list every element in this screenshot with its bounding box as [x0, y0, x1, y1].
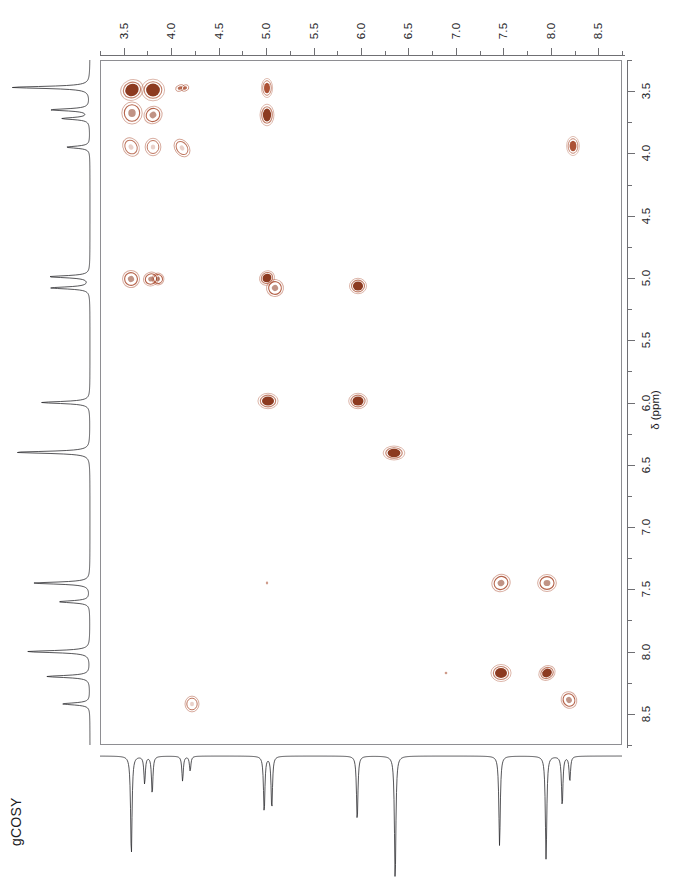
f2-minor-tick [100, 51, 101, 55]
f2-minor-tick [147, 51, 148, 55]
f1-minor-tick [628, 620, 632, 621]
f2-minor-tick [337, 51, 338, 55]
f2-tick-label: 5.5 [308, 23, 320, 40]
f2-major-tick [171, 48, 172, 55]
f2-major-tick [219, 48, 220, 55]
f1-tick-label: 8.5 [640, 706, 652, 723]
f2-tick-label: 7.5 [497, 23, 509, 40]
cross-peak [558, 688, 579, 711]
f1-tick-label: 5.0 [640, 270, 652, 287]
cross-peak [120, 134, 142, 159]
f2-minor-tick [195, 51, 196, 55]
cross-peak [142, 135, 164, 159]
f1-projection-svg [0, 60, 98, 745]
f1-minor-tick [628, 247, 632, 248]
f1-minor-tick [628, 683, 632, 684]
cross-peak [172, 136, 192, 161]
f2-major-tick [551, 48, 552, 55]
f1-axis-line [627, 60, 628, 748]
f2-major-tick [456, 48, 457, 55]
f2-axis-line [100, 55, 625, 56]
f1-minor-tick [628, 496, 632, 497]
f2-tick-label: 7.0 [450, 23, 462, 40]
f2-tick-label: 5.0 [260, 23, 272, 40]
f2-tick-label: 6.0 [355, 23, 367, 40]
cross-peak [347, 276, 370, 298]
f1-major-tick [628, 465, 635, 466]
experiment-label: gCOSY [8, 798, 24, 846]
cross-peak [535, 571, 560, 594]
f2-minor-tick [575, 51, 576, 55]
f1-minor-tick [628, 185, 632, 186]
f2-major-tick [408, 48, 409, 55]
f2-major-tick [598, 48, 599, 55]
f1-major-tick [628, 652, 635, 653]
f1-major-tick [628, 714, 635, 715]
cross-peak [141, 103, 166, 126]
f2-tick-label: 4.5 [213, 23, 225, 40]
cross-peak [255, 390, 281, 412]
f1-minor-tick [628, 434, 632, 435]
f1-major-tick [628, 589, 635, 590]
f1-tick-label: 7.0 [640, 519, 652, 536]
f2-minor-tick [527, 51, 528, 55]
cross-peak [257, 101, 277, 129]
f2-projection-svg [100, 748, 622, 888]
f2-minor-tick [480, 51, 481, 55]
f2-minor-tick [290, 51, 291, 55]
f2-tick-label: 6.5 [402, 23, 414, 40]
f2-major-tick [503, 48, 504, 55]
f2-projection-trace [100, 748, 622, 888]
f1-tick-label: 8.0 [640, 643, 652, 660]
spectrum-plot-area[interactable] [100, 60, 622, 745]
f2-minor-tick [242, 51, 243, 55]
cross-peak-layer [101, 61, 621, 744]
cross-peak [179, 82, 193, 94]
f1-major-tick [628, 216, 635, 217]
f1-major-tick [628, 340, 635, 341]
f2-minor-tick [622, 51, 623, 55]
f1-major-tick [628, 278, 635, 279]
f2-tick-label: 8.5 [592, 23, 604, 40]
f2-minor-tick [385, 51, 386, 55]
f1-major-tick [628, 527, 635, 528]
cross-peak [346, 390, 371, 412]
f1-minor-tick [628, 745, 632, 746]
cross-peak [441, 668, 450, 677]
f1-tick-label: 4.5 [640, 207, 652, 224]
f2-tick-label: 4.0 [165, 23, 177, 40]
f1-axis-title: δ (ppm) [649, 390, 661, 430]
f2-projection-path [100, 756, 622, 876]
f1-tick-label: 4.0 [640, 145, 652, 162]
f1-tick-label: 5.5 [640, 332, 652, 349]
f1-minor-tick [628, 558, 632, 559]
cross-peak [380, 443, 408, 463]
spectrum-canvas: 3.54.04.55.05.56.06.57.07.58.08.5 3.54.0… [0, 0, 676, 893]
f1-tick-label: 7.5 [640, 581, 652, 598]
f1-tick-label: 6.5 [640, 456, 652, 473]
f1-tick-label: 3.5 [640, 83, 652, 100]
cross-peak [149, 270, 167, 288]
cross-peak [536, 663, 559, 683]
f2-major-tick [124, 48, 125, 55]
cross-peak [182, 693, 202, 715]
f1-projection-path [12, 60, 90, 745]
f2-tick-label: 3.5 [118, 23, 130, 40]
cross-peak [563, 133, 582, 158]
f1-major-tick [628, 403, 635, 404]
f1-minor-tick [628, 371, 632, 372]
f2-tick-label: 8.0 [545, 23, 557, 40]
cross-peak [487, 661, 513, 684]
f1-projection-trace [0, 60, 98, 745]
cross-peak [263, 578, 271, 587]
cross-peak [120, 267, 143, 290]
f1-minor-tick [628, 309, 632, 310]
f2-minor-tick [432, 51, 433, 55]
f1-major-tick [628, 153, 635, 154]
f2-major-tick [361, 48, 362, 55]
f1-minor-tick [628, 122, 632, 123]
f2-major-tick [266, 48, 267, 55]
f1-minor-tick [628, 60, 632, 61]
cross-peak [263, 276, 286, 299]
cross-peak [258, 76, 275, 101]
